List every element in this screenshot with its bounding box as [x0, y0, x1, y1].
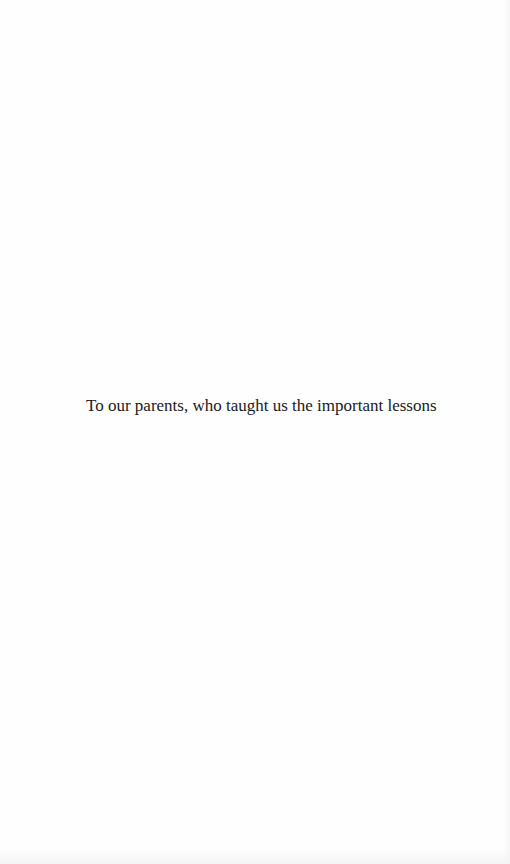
dedication-text: To our parents, who taught us the import… — [86, 396, 437, 416]
page-bottom-shading — [0, 848, 510, 864]
page-edge-shading — [504, 0, 510, 864]
dedication-page: To our parents, who taught us the import… — [0, 0, 510, 864]
